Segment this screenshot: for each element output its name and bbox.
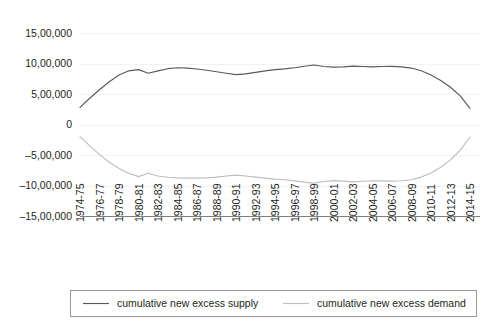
y-axis-tick-label: –10,00,000: [19, 179, 72, 191]
legend-label: cumulative new excess supply: [117, 297, 259, 309]
y-axis-tick-label: 10,00,000: [25, 57, 72, 69]
y-axis-tick-label: 5,00,000: [31, 88, 72, 100]
series-line: [80, 65, 470, 108]
series-group: [80, 65, 470, 183]
gridlines-group: [80, 34, 480, 187]
y-axis-tick-label: –15,00,000: [19, 210, 72, 222]
chart-container: 15,00,00010,00,0005,00,0000–5,00,000–10,…: [0, 0, 495, 322]
line-chart: 15,00,00010,00,0005,00,0000–5,00,000–10,…: [0, 0, 495, 322]
y-axis-tick-label: –5,00,000: [25, 149, 72, 161]
chart-legend: cumulative new excess supplycumulative n…: [71, 291, 477, 317]
y-axis-tick-label: 15,00,000: [25, 27, 72, 39]
y-axis-tick-labels: 15,00,00010,00,0005,00,0000–5,00,000–10,…: [19, 27, 72, 222]
legend-label: cumulative new excess demand: [317, 297, 466, 309]
y-axis-tick-label: 0: [66, 118, 72, 130]
series-line: [80, 137, 470, 183]
